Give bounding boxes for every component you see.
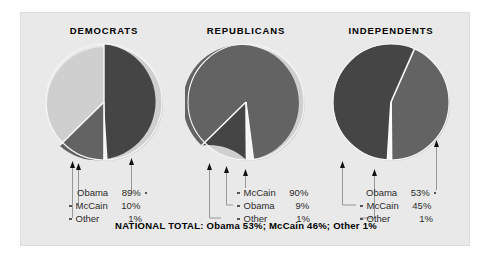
national-total-footer: NATIONAL TOTAL: Obama 53%; McCain 46%; O…: [21, 220, 471, 231]
leader-mccain: [360, 176, 375, 218]
chart-panel: DEMOCRATS: [20, 12, 470, 246]
arrow-mccain-icon: [243, 169, 248, 176]
arrow-mccain-icon: [76, 163, 81, 170]
arrow-other-icon: [340, 161, 345, 168]
arrow-mccain-icon: [372, 169, 377, 176]
arrow-other-icon: [70, 161, 75, 168]
arrow-obama-icon: [224, 166, 229, 173]
infographic-canvas: DEMOCRATS: [0, 0, 489, 264]
leader-other: [343, 168, 357, 205]
arrow-obama-icon: [129, 158, 134, 165]
arrow-other-icon: [207, 163, 212, 170]
leader-lines-democrats: [29, 13, 179, 247]
leader-lines-independents: [316, 13, 466, 247]
chart-republicans: REPUBLICANS: [171, 13, 321, 247]
leader-obama: [227, 173, 234, 205]
chart-democrats: DEMOCRATS: [29, 13, 179, 247]
chart-independents: INDEPENDENTS: [316, 13, 466, 247]
arrow-obama-icon: [434, 140, 439, 147]
leader-other: [210, 170, 222, 218]
leader-lines-republicans: [171, 13, 321, 247]
